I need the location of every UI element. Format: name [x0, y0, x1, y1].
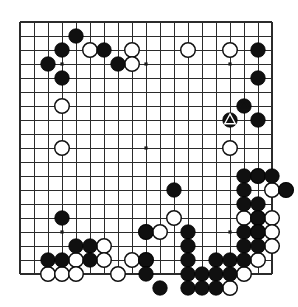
white-stone-body[interactable]	[223, 43, 238, 58]
black-stone[interactable]	[279, 183, 294, 198]
white-stone[interactable]	[223, 281, 238, 296]
black-stone-body[interactable]	[181, 225, 196, 240]
black-stone-body[interactable]	[41, 57, 56, 72]
black-stone[interactable]	[83, 253, 98, 268]
white-stone-body[interactable]	[55, 267, 70, 282]
black-stone[interactable]	[55, 253, 70, 268]
black-stone[interactable]	[265, 169, 280, 184]
white-stone-body[interactable]	[125, 253, 140, 268]
black-stone[interactable]	[41, 57, 56, 72]
white-stone-body[interactable]	[69, 267, 84, 282]
white-stone-body[interactable]	[167, 211, 182, 226]
go-board-canvas[interactable]	[0, 0, 298, 307]
black-stone[interactable]	[181, 239, 196, 254]
black-stone[interactable]	[251, 225, 266, 240]
white-stone-body[interactable]	[125, 43, 140, 58]
white-stone-body[interactable]	[55, 141, 70, 156]
black-stone[interactable]	[237, 239, 252, 254]
white-stone-body[interactable]	[223, 141, 238, 156]
black-stone-body[interactable]	[139, 253, 154, 268]
black-stone[interactable]	[237, 183, 252, 198]
black-stone[interactable]	[139, 253, 154, 268]
black-stone-body[interactable]	[251, 113, 266, 128]
black-stone[interactable]	[55, 211, 70, 226]
white-stone-body[interactable]	[83, 43, 98, 58]
white-stone-body[interactable]	[69, 253, 84, 268]
white-stone[interactable]	[69, 253, 84, 268]
black-stone-body[interactable]	[181, 239, 196, 254]
black-stone-body[interactable]	[237, 169, 252, 184]
black-stone[interactable]	[153, 281, 168, 296]
black-stone[interactable]	[251, 211, 266, 226]
black-stone-body[interactable]	[55, 211, 70, 226]
white-stone[interactable]	[237, 267, 252, 282]
black-stone-body[interactable]	[69, 29, 84, 44]
white-stone-body[interactable]	[265, 211, 280, 226]
black-stone[interactable]	[83, 239, 98, 254]
black-stone[interactable]	[237, 253, 252, 268]
white-stone[interactable]	[223, 141, 238, 156]
white-stone[interactable]	[167, 211, 182, 226]
black-stone-body[interactable]	[251, 211, 266, 226]
white-stone-body[interactable]	[97, 253, 112, 268]
white-stone[interactable]	[41, 267, 56, 282]
white-stone-body[interactable]	[41, 267, 56, 282]
white-stone[interactable]	[181, 43, 196, 58]
black-stone[interactable]	[167, 183, 182, 198]
black-stone-body[interactable]	[251, 169, 266, 184]
black-stone[interactable]	[251, 169, 266, 184]
white-stone-body[interactable]	[55, 99, 70, 114]
white-stone[interactable]	[55, 141, 70, 156]
black-stone-body[interactable]	[97, 43, 112, 58]
black-stone-body[interactable]	[55, 71, 70, 86]
black-stone-body[interactable]	[55, 43, 70, 58]
black-stone-body[interactable]	[251, 71, 266, 86]
white-stone[interactable]	[97, 239, 112, 254]
white-stone-body[interactable]	[97, 239, 112, 254]
black-stone[interactable]	[209, 281, 224, 296]
black-stone[interactable]	[181, 253, 196, 268]
black-stone[interactable]	[181, 225, 196, 240]
black-stone[interactable]	[251, 43, 266, 58]
black-stone-body[interactable]	[55, 253, 70, 268]
white-stone-body[interactable]	[125, 57, 140, 72]
black-stone[interactable]	[251, 197, 266, 212]
black-stone-body[interactable]	[181, 267, 196, 282]
white-stone[interactable]	[265, 225, 280, 240]
white-stone[interactable]	[69, 267, 84, 282]
go-board[interactable]	[0, 0, 298, 307]
black-stone-body[interactable]	[139, 267, 154, 282]
white-stone[interactable]	[125, 43, 140, 58]
white-stone[interactable]	[265, 239, 280, 254]
black-stone[interactable]	[111, 57, 126, 72]
black-stone[interactable]	[209, 267, 224, 282]
black-stone-body[interactable]	[195, 281, 210, 296]
white-stone-body[interactable]	[265, 183, 280, 198]
white-stone-body[interactable]	[251, 253, 266, 268]
black-stone[interactable]	[69, 29, 84, 44]
black-stone-body[interactable]	[153, 281, 168, 296]
black-stone[interactable]	[237, 197, 252, 212]
black-stone[interactable]	[139, 225, 154, 240]
white-stone[interactable]	[237, 211, 252, 226]
white-stone-body[interactable]	[237, 211, 252, 226]
white-stone[interactable]	[125, 57, 140, 72]
white-stone[interactable]	[83, 43, 98, 58]
black-stone-body[interactable]	[41, 253, 56, 268]
black-stone[interactable]	[181, 267, 196, 282]
black-stone-body[interactable]	[209, 281, 224, 296]
white-stone[interactable]	[55, 267, 70, 282]
black-stone[interactable]	[97, 43, 112, 58]
black-stone[interactable]	[251, 239, 266, 254]
black-stone-body[interactable]	[181, 281, 196, 296]
white-stone-body[interactable]	[153, 225, 168, 240]
black-stone-body[interactable]	[69, 239, 84, 254]
black-stone[interactable]	[223, 267, 238, 282]
black-stone[interactable]	[69, 239, 84, 254]
black-stone-body[interactable]	[237, 183, 252, 198]
white-stone-body[interactable]	[265, 225, 280, 240]
black-stone-body[interactable]	[237, 239, 252, 254]
white-stone[interactable]	[223, 43, 238, 58]
white-stone-body[interactable]	[265, 239, 280, 254]
black-stone-body[interactable]	[237, 197, 252, 212]
